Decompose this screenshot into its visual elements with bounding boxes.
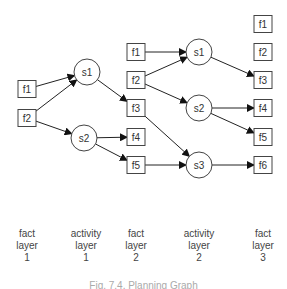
svg-text:s2: s2 <box>194 103 205 114</box>
layer-label-line2: layer <box>169 240 229 252</box>
svg-text:s3: s3 <box>194 160 205 171</box>
svg-text:f2: f2 <box>132 75 141 86</box>
fact-node-l3-f2: f2 <box>254 44 272 61</box>
layer-label-line3: 2 <box>169 252 229 264</box>
fact-node-l3-f4: f4 <box>254 100 272 117</box>
layer-label-3: factlayer2 <box>106 228 166 264</box>
activity-node-a2-s2: s2 <box>186 95 212 121</box>
layer-label-5: factlayer3 <box>233 228 287 264</box>
edge-arrow <box>211 57 254 76</box>
edge-arrow <box>145 84 187 103</box>
svg-text:f3: f3 <box>132 103 141 114</box>
edge-arrow <box>36 76 74 87</box>
svg-text:f5: f5 <box>259 132 268 143</box>
svg-text:f5: f5 <box>132 160 141 171</box>
fact-node-l3-f6: f6 <box>254 157 272 174</box>
activity-node-a1-s2: s2 <box>71 125 97 151</box>
layer-label-4: activitylayer2 <box>169 228 229 264</box>
svg-text:s2: s2 <box>79 133 90 144</box>
layer-label-line1: fact <box>233 228 287 240</box>
fact-node-l2-f4: f4 <box>127 129 145 146</box>
layer-label-line2: layer <box>0 240 57 252</box>
svg-text:s1: s1 <box>82 67 93 78</box>
layer-label-line1: fact <box>106 228 166 240</box>
edge-arrow <box>97 137 127 138</box>
edge-arrow <box>145 57 187 76</box>
fact-node-l1-f1: f1 <box>18 81 36 98</box>
svg-text:f1: f1 <box>23 84 32 95</box>
planning-graph: f1f2s1s2f1f2f3f4f5s1s2s3f1f2f3f4f5f6 <box>0 0 287 200</box>
activity-node-a2-s1: s1 <box>186 39 212 65</box>
layer-label-line3: 2 <box>106 252 166 264</box>
svg-text:f4: f4 <box>132 132 141 143</box>
fact-node-l2-f1: f1 <box>127 44 145 61</box>
edge-arrow <box>96 144 127 160</box>
svg-text:f6: f6 <box>259 160 268 171</box>
edge-arrow <box>97 80 127 102</box>
layer-label-1: factlayer1 <box>0 228 57 264</box>
fact-node-l2-f5: f5 <box>127 157 145 174</box>
svg-text:s1: s1 <box>194 47 205 58</box>
svg-text:f1: f1 <box>259 19 268 30</box>
edge-arrow <box>36 121 72 134</box>
layer-label-line1: fact <box>0 228 57 240</box>
fact-node-l3-f5: f5 <box>254 129 272 146</box>
figure-caption: Fig. 7.4. Planning Graph <box>0 280 287 289</box>
layer-label-line3: 1 <box>0 252 57 264</box>
svg-text:f1: f1 <box>132 47 141 58</box>
svg-text:f2: f2 <box>23 113 32 124</box>
activity-node-a1-s1: s1 <box>74 59 100 85</box>
activity-node-a2-s3: s3 <box>186 152 212 178</box>
fact-node-l3-f3: f3 <box>254 72 272 89</box>
svg-text:f4: f4 <box>259 103 268 114</box>
fact-node-l1-f2: f2 <box>18 110 36 127</box>
layer-label-line1: activity <box>169 228 229 240</box>
edge-arrow <box>145 116 189 156</box>
layer-label-line2: layer <box>106 240 166 252</box>
fact-node-l3-f1: f1 <box>254 16 272 33</box>
svg-text:f3: f3 <box>259 75 268 86</box>
svg-text:f2: f2 <box>259 47 268 58</box>
layer-label-line3: 3 <box>233 252 287 264</box>
fact-node-l2-f3: f3 <box>127 100 145 117</box>
edge-arrow <box>211 113 254 133</box>
fact-node-l2-f2: f2 <box>127 72 145 89</box>
layer-label-line2: layer <box>233 240 287 252</box>
